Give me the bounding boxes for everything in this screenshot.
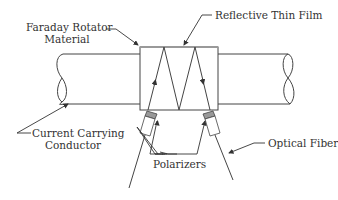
faraday-rotator-box: [140, 47, 218, 110]
label-conductor-line1: Current Carrying: [32, 127, 114, 139]
label-faraday-line2: Material: [26, 33, 108, 45]
label-current-carrying-conductor: Current Carrying Conductor: [32, 127, 114, 151]
label-optical-fiber: Optical Fiber: [268, 137, 338, 149]
label-conductor-line2: Conductor: [32, 139, 114, 151]
polarizer-right: [203, 111, 220, 136]
label-faraday-rotator: Faraday Rotator Material: [26, 21, 108, 45]
label-faraday-line1: Faraday Rotator: [26, 21, 108, 33]
label-reflective-thin-film: Reflective Thin Film: [215, 9, 322, 21]
label-polarizers: Polarizers: [153, 158, 206, 170]
